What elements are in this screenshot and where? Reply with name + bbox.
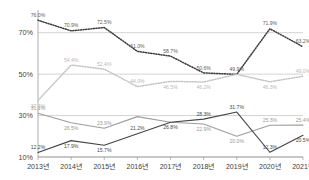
point-label: 61.0% [130,43,145,49]
point-label: 31.7% [230,104,245,110]
x-category-label: 2015년 [93,162,115,170]
point-label: 44.0% [130,78,145,84]
point-label: 46.3% [263,84,278,90]
point-label: 49.0% [296,68,309,74]
x-category-label: 2018년 [193,162,215,170]
point-label: 12.2% [31,144,46,150]
x-category-label: 2014년 [60,162,82,170]
point-label: 23.9% [97,120,112,126]
line-chart: 10%30%50%70% 2013년2014년2015년2016년2017년20… [0,0,309,180]
point-label: 22.9% [196,126,211,132]
x-category-label: 2019년 [226,162,248,170]
y-axis-tick-labels: 10%30%50%70% [19,28,34,161]
chart-plot-area: 10%30%50%70% 2013년2014년2015년2016년2017년20… [0,0,309,180]
point-label: 26.8% [163,124,178,130]
y-tick-label: 10% [19,153,34,162]
point-label: 25.4% [296,117,309,123]
point-label: 71.9% [263,20,278,26]
point-label: 49.9% [230,66,245,72]
x-category-label: 2016년 [127,162,149,170]
y-tick-label: 70% [19,28,34,37]
point-label: 52.4% [97,61,112,67]
point-label: 31.1% [31,105,46,111]
y-tick-label: 30% [19,111,34,120]
point-label: 20.5% [296,137,309,143]
point-label: 46.5% [163,84,178,90]
x-category-label: 2013년 [27,162,49,170]
point-label: 17.9% [64,143,79,149]
point-label: 63.2% [296,38,309,44]
point-label: 25.3% [263,117,278,123]
point-label: 76.0% [31,12,46,18]
point-label: 46.2% [196,84,211,90]
point-label: 12.3% [263,144,278,150]
point-label: 58.7% [163,48,178,54]
x-axis-category-labels: 2013년2014년2015년2016년2017년2018년2019년2020년… [27,162,309,170]
point-label: 70.9% [64,22,79,28]
y-tick-label: 50% [19,70,34,79]
x-category-label: 2017년 [160,162,182,170]
point-label: 15.7% [97,147,112,153]
x-category-label: 2021년 [292,162,309,170]
point-label: 21.2% [130,125,145,131]
point-label: 50.6% [196,65,211,71]
point-label: 54.4% [64,57,79,63]
point-label: 28.3% [196,111,211,117]
point-label: 72.5% [97,19,112,25]
point-label: 26.5% [64,125,79,131]
x-category-label: 2020년 [259,162,281,170]
point-label: 20.0% [230,138,245,144]
